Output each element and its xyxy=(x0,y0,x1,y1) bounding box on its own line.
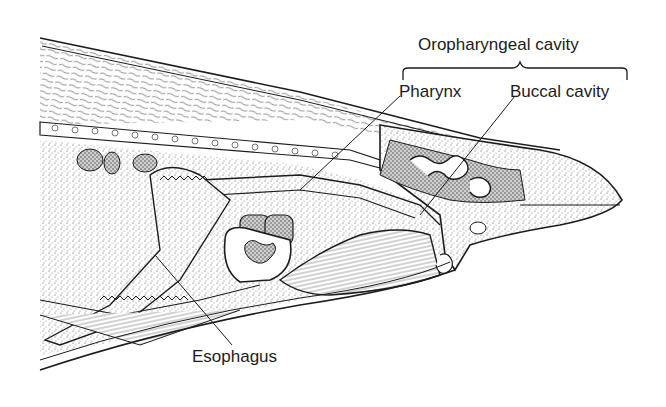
label-pharynx: Pharynx xyxy=(399,83,461,100)
oropharyngeal-bracket xyxy=(403,62,627,80)
head-section-drawing xyxy=(0,0,666,407)
label-esophagus: Esophagus xyxy=(192,348,277,365)
label-oropharyngeal-cavity: Oropharyngeal cavity xyxy=(418,36,579,53)
anatomy-figure: Oropharyngeal cavity Pharynx Buccal cavi… xyxy=(0,0,666,407)
label-buccal-cavity: Buccal cavity xyxy=(510,83,609,100)
